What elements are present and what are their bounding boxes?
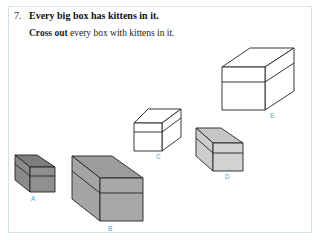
box-e[interactable] (222, 48, 294, 110)
box-label-e: E (270, 112, 274, 119)
box-label-b: B (108, 225, 112, 232)
box-label-d: D (225, 173, 230, 180)
box-c[interactable] (134, 109, 181, 151)
boxes-illustration (0, 0, 321, 240)
box-label-a: A (31, 195, 35, 202)
box-label-c: C (156, 153, 161, 160)
box-a[interactable] (15, 155, 55, 192)
box-d[interactable] (196, 128, 243, 171)
box-b[interactable] (72, 156, 143, 221)
